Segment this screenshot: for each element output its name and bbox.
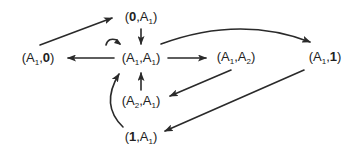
edge-a1-a2-to-a2-a1	[170, 70, 231, 96]
node-second-term: A	[143, 50, 152, 65]
paren-close: )	[337, 49, 341, 64]
node-0-a1: (0,A1)	[125, 9, 158, 25]
paren-close: )	[156, 93, 160, 108]
node-a1-0: (A1,0)	[22, 50, 55, 66]
node-a1-1: (A1,1)	[309, 49, 342, 65]
node-first-term: 1	[129, 129, 136, 144]
node-first-term: A	[26, 50, 35, 65]
edge-a1-1-to-1-a1	[165, 70, 304, 131]
state-transition-diagram	[0, 0, 360, 156]
node-first-term: A	[126, 93, 135, 108]
node-first-term: A	[126, 50, 135, 65]
node-a1-a1: (A1,A1)	[122, 50, 161, 66]
node-1-a1: (1,A1)	[125, 129, 158, 145]
node-first-term: A	[313, 49, 322, 64]
paren-close: )	[156, 50, 160, 65]
paren-close: )	[153, 9, 157, 24]
node-second-term: A	[140, 9, 149, 24]
paren-close: )	[153, 129, 157, 144]
node-first-term: A	[221, 49, 230, 64]
paren-close: )	[251, 49, 255, 64]
node-first-term: 0	[129, 9, 136, 24]
node-a1-a2: (A1,A2)	[217, 49, 256, 65]
node-a2-a1: (A2,A1)	[122, 93, 161, 109]
node-second-term: A	[140, 129, 149, 144]
paren-close: )	[50, 50, 54, 65]
node-second-term: A	[238, 49, 247, 64]
edge-a1-0-to-0-a1	[40, 18, 112, 45]
node-second-term: A	[143, 93, 152, 108]
edge-a1-a1-to-a1-1	[161, 29, 310, 44]
